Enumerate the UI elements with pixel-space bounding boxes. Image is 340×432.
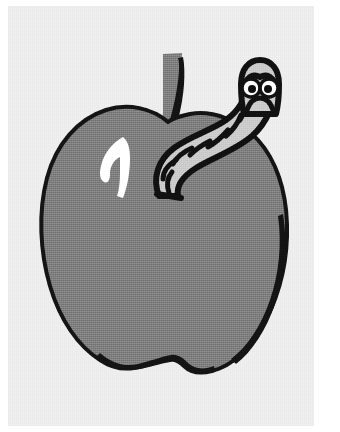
illustration-canvas <box>0 0 340 432</box>
apple-body <box>41 107 287 373</box>
apple-body-group <box>41 107 287 373</box>
worm-left-eye-pupil <box>248 85 256 93</box>
apple-with-worm-artwork <box>0 0 340 432</box>
worm-tail-end <box>157 194 181 198</box>
worm-right-eye-pupil <box>264 85 272 93</box>
